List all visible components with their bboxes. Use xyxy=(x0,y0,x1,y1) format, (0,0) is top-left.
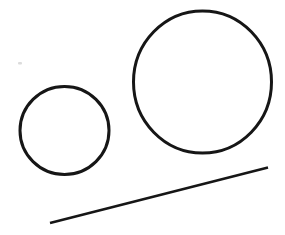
diagonal-line xyxy=(50,168,268,224)
paper-speck xyxy=(18,62,22,65)
line-drawing xyxy=(0,0,285,235)
large-circle xyxy=(134,11,272,153)
drawing-canvas xyxy=(0,0,285,235)
small-circle xyxy=(20,87,109,175)
